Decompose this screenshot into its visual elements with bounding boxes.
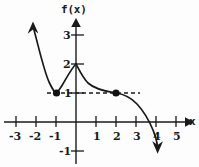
inflection-point bbox=[112, 89, 119, 96]
y-tick-label-1: 1 bbox=[64, 88, 72, 99]
x-tick-label-3: 3 bbox=[133, 131, 141, 142]
x-axis bbox=[4, 117, 194, 127]
x-axis-label: x bbox=[189, 116, 195, 127]
y-axis bbox=[71, 18, 81, 164]
y-tick-label--1: -1 bbox=[59, 146, 71, 157]
local-minimum-point bbox=[53, 89, 60, 96]
x-tick-label--3: -3 bbox=[9, 131, 21, 142]
x-tick-label--1: -1 bbox=[49, 131, 61, 142]
x-tick-label-2: 2 bbox=[113, 131, 121, 142]
x-tick-label-5: 5 bbox=[173, 131, 181, 142]
graph-figure: f(x) x -3 -2 -1 1 2 3 4 5 3 2 1 -1 bbox=[0, 0, 199, 167]
arrow-up-left-branch-icon bbox=[28, 22, 39, 34]
y-tick-label-3: 3 bbox=[63, 30, 71, 41]
x-tick-label--2: -2 bbox=[29, 131, 41, 142]
x-tick-label-1: 1 bbox=[93, 131, 101, 142]
y-axis-label: f(x) bbox=[61, 4, 87, 15]
y-tick-label-2: 2 bbox=[63, 59, 71, 70]
x-tick-label-4: 4 bbox=[153, 131, 161, 142]
y-axis-arrowhead bbox=[71, 18, 81, 27]
